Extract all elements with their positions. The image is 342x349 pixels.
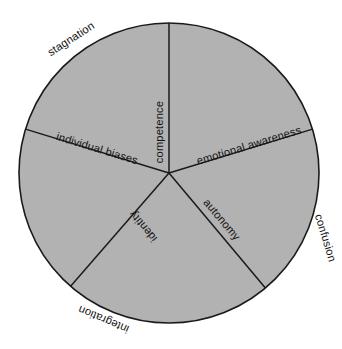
diagram-canvas: competence emotional awareness individua… [0, 0, 342, 349]
label-competence: competence [153, 101, 165, 163]
label-confusion: confusion [313, 213, 339, 264]
circle-sector-diagram: competence emotional awareness individua… [0, 0, 342, 349]
